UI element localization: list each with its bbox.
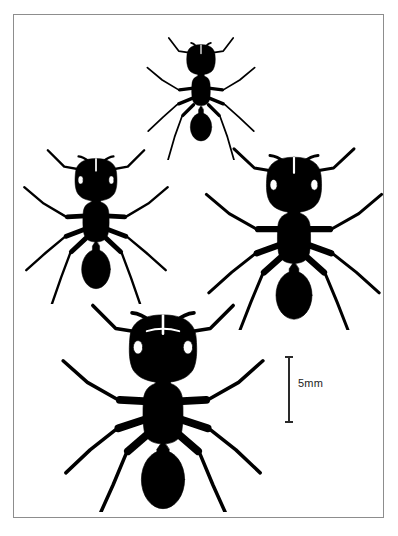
specimen-left: [18, 140, 174, 304]
ant-drawing-bottom: [58, 296, 268, 512]
scale-bar-label: 5mm: [298, 377, 323, 389]
scale-bar-line: [288, 357, 290, 423]
figure-plate: 5mm: [0, 0, 398, 536]
scale-bar-cap-bottom: [285, 421, 293, 423]
ant-drawing-left: [18, 140, 174, 304]
specimen-bottom: [58, 296, 268, 512]
scale-bar: 5mm: [283, 352, 343, 430]
